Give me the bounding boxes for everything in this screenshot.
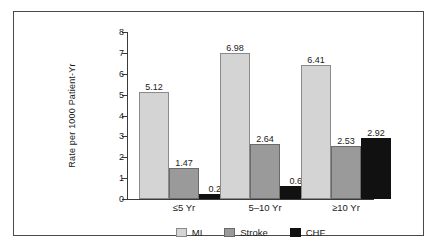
legend-item-stroke: Stroke xyxy=(224,228,267,238)
y-tick-label: 6 xyxy=(119,69,124,78)
bar-value-label: 2.64 xyxy=(256,135,274,144)
chart-legend: MI Stroke CHF xyxy=(127,228,374,238)
legend-swatch-icon xyxy=(176,228,187,237)
legend-label: Stroke xyxy=(240,228,267,238)
bar-stroke-group-2: 2.53 xyxy=(331,146,361,199)
bar-stroke-group-1: 2.64 xyxy=(250,144,280,199)
x-axis-label-group-1: 5–10 Yr xyxy=(248,203,281,213)
y-tick-label: 8 xyxy=(119,28,124,37)
y-axis-line xyxy=(127,32,128,199)
bar-value-label: 6.41 xyxy=(307,56,325,65)
bar-mi-group-0: 5.12 xyxy=(139,92,169,199)
legend-swatch-icon xyxy=(290,228,301,237)
y-axis-title: Rate per 1000 Patient-Yr xyxy=(66,32,78,199)
y-tick-label: 2 xyxy=(119,153,124,162)
bar-value-label: 6.98 xyxy=(226,44,244,53)
legend-label: CHF xyxy=(306,228,326,238)
figure-frame: Rate per 1000 Patient-Yr 8 7 6 5 xyxy=(13,11,424,236)
legend-item-mi: MI xyxy=(176,228,203,238)
bar-value-label: 2.92 xyxy=(367,129,385,138)
bar-chf-group-2: 2.92 xyxy=(361,138,391,199)
legend-label: MI xyxy=(192,228,203,238)
y-tick-label: 1 xyxy=(119,174,124,183)
y-tick-label: 0 xyxy=(119,195,124,204)
bar-value-label: 2.53 xyxy=(337,137,355,146)
bar-stroke-group-0: 1.47 xyxy=(169,168,199,199)
plot-area: 8 7 6 5 4 3 2 xyxy=(127,32,374,199)
bar-mi-group-2: 6.41 xyxy=(301,65,331,199)
legend-item-chf: CHF xyxy=(290,228,326,238)
legend-swatch-icon xyxy=(224,228,235,237)
bar-value-label: 1.47 xyxy=(175,159,193,168)
y-tick-label: 5 xyxy=(119,90,124,99)
x-axis-label-group-2: ≥10 Yr xyxy=(332,203,360,213)
y-tick-label: 3 xyxy=(119,132,124,141)
y-tick-label: 7 xyxy=(119,48,124,57)
bar-mi-group-1: 6.98 xyxy=(220,53,250,199)
x-axis-label-group-0: ≤5 Yr xyxy=(173,203,195,213)
bar-value-label: 5.12 xyxy=(145,83,163,92)
x-axis-line xyxy=(127,199,374,200)
y-tick-label: 4 xyxy=(119,111,124,120)
chart-figure: Rate per 1000 Patient-Yr 8 7 6 5 xyxy=(0,0,440,250)
